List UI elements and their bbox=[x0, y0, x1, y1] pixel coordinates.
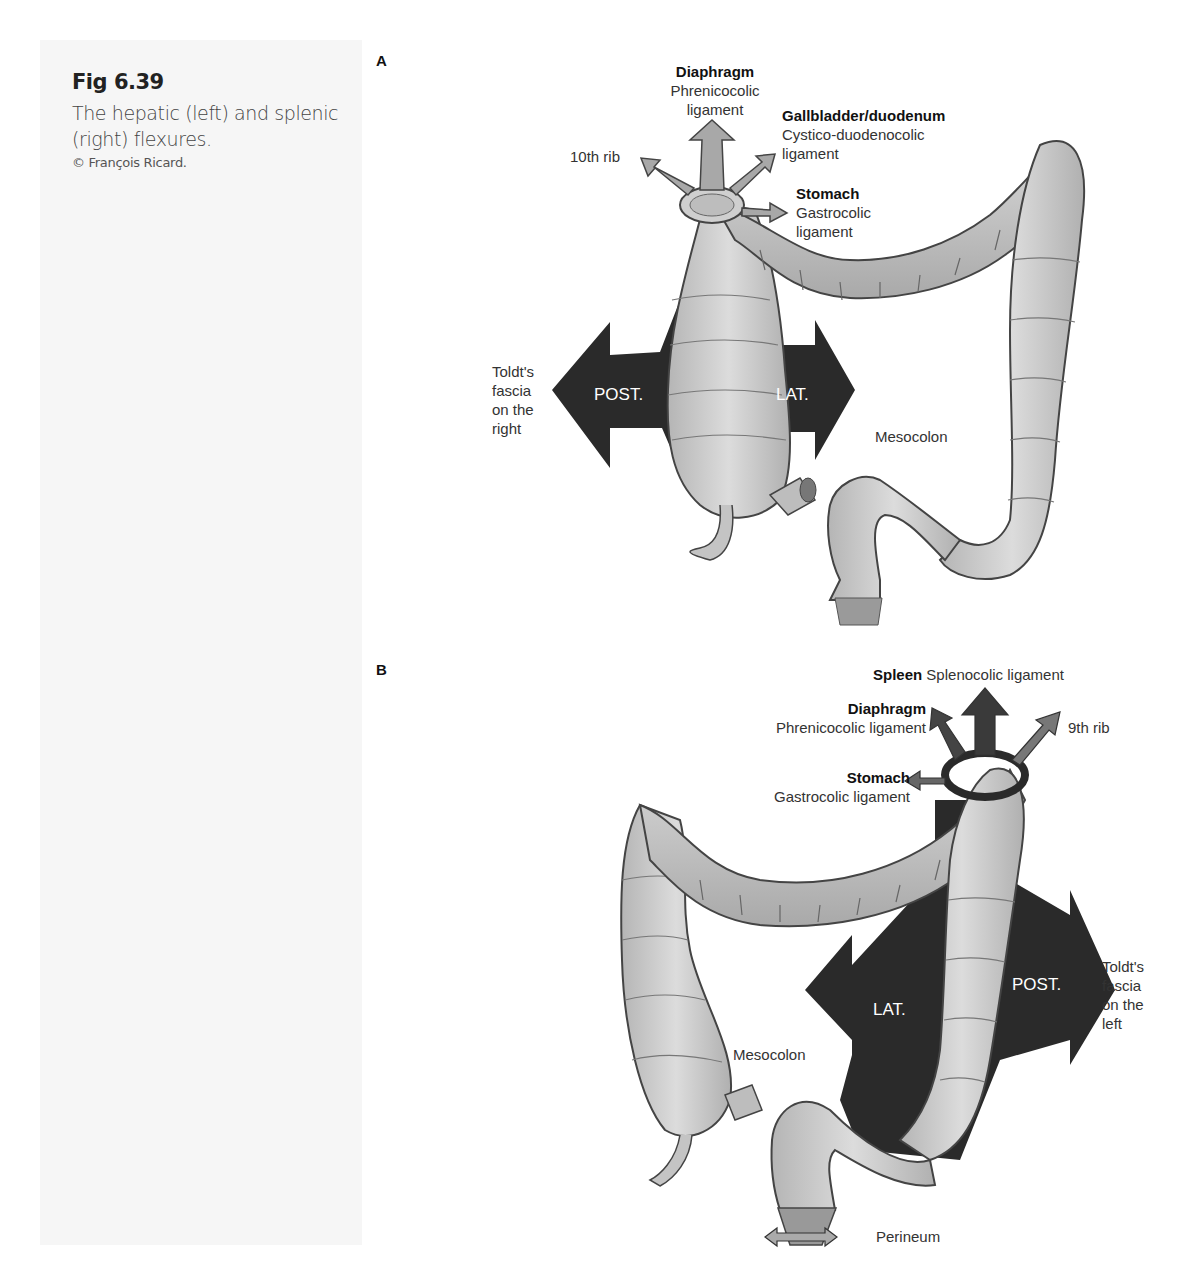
stomach-label-a: Stomach Gastrocolic ligament bbox=[796, 184, 896, 241]
diaphragm-label-b: Diaphragm Phrenicocolic ligament bbox=[720, 699, 926, 737]
stomach-title-a: Stomach bbox=[796, 185, 859, 202]
spleen-label-b: Spleen Splenocolic ligament bbox=[873, 665, 1064, 684]
diaphragm-label-a: Diaphragm Phrenicocolic ligament bbox=[655, 62, 775, 119]
panel-a-letter: A bbox=[376, 52, 387, 69]
stomach-sub-a: Gastrocolic ligament bbox=[796, 203, 886, 241]
perineum-label-b: Perineum bbox=[876, 1227, 940, 1246]
mesocolon-label-a: Mesocolon bbox=[875, 427, 948, 446]
spleen-sub-b: Splenocolic ligament bbox=[926, 666, 1064, 683]
diaphragm-sub-b: Phrenicocolic ligament bbox=[776, 719, 926, 736]
stomach-label-b: Stomach Gastrocolic ligament bbox=[720, 768, 910, 806]
gallbladder-title-a: Gallbladder/duodenum bbox=[782, 107, 945, 124]
spleen-title-b: Spleen bbox=[873, 666, 922, 683]
toldt-label-a: Toldt's fascia on the right bbox=[492, 362, 552, 438]
panel-b-letter: B bbox=[376, 661, 387, 678]
rib-label-a: 10th rib bbox=[570, 147, 620, 166]
colon-illustration bbox=[0, 0, 1193, 1281]
rib-label-b: 9th rib bbox=[1068, 718, 1110, 737]
lat-label-a: LAT. bbox=[776, 385, 809, 405]
diaphragm-title-a: Diaphragm bbox=[676, 63, 754, 80]
stomach-title-b: Stomach bbox=[847, 769, 910, 786]
diaphragm-title-b: Diaphragm bbox=[848, 700, 926, 717]
mesocolon-label-b: Mesocolon bbox=[733, 1045, 806, 1064]
gallbladder-sub-a: Cystico-duodenocolic ligament bbox=[782, 125, 942, 163]
toldt-label-b: Toldt's fascia on the left bbox=[1102, 957, 1162, 1033]
stomach-sub-b: Gastrocolic ligament bbox=[774, 788, 910, 805]
gallbladder-label-a: Gallbladder/duodenum Cystico-duodenocoli… bbox=[782, 106, 992, 163]
lat-label-b: LAT. bbox=[873, 1000, 906, 1020]
post-label-a: POST. bbox=[594, 385, 643, 405]
post-label-b: POST. bbox=[1012, 975, 1061, 995]
diaphragm-sub-a: Phrenicocolic ligament bbox=[670, 81, 760, 119]
